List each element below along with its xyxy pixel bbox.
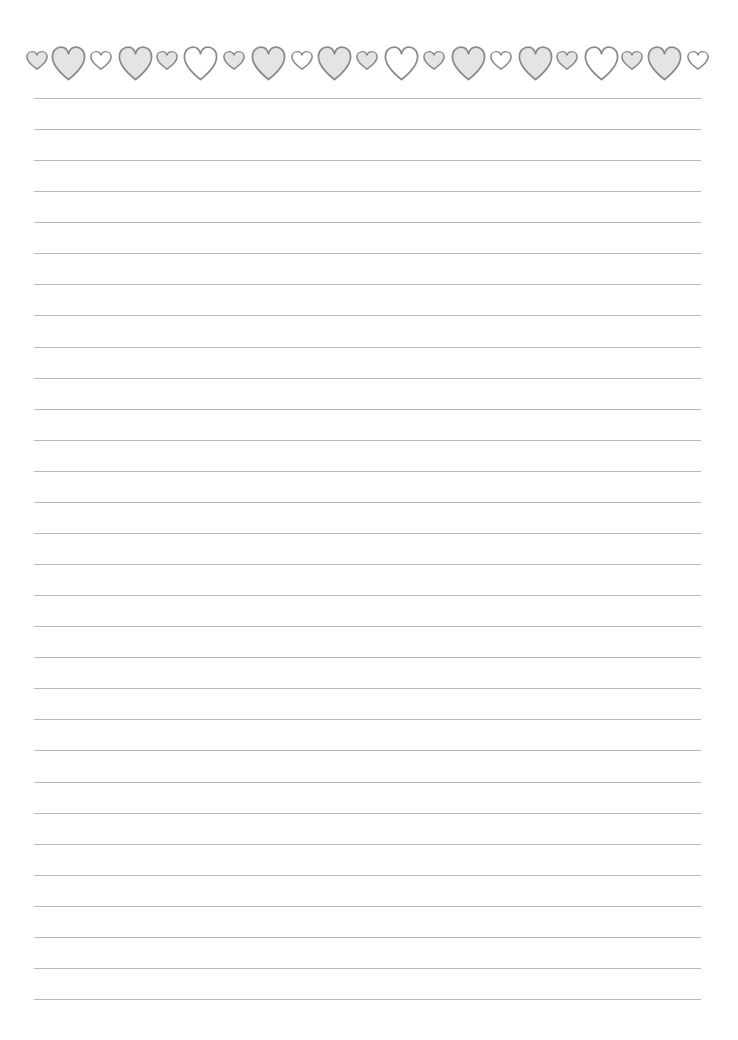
ruled-line <box>34 906 701 907</box>
ruled-line <box>34 595 701 596</box>
ruled-line <box>34 160 701 161</box>
ruled-line <box>34 315 701 316</box>
ruled-line <box>34 409 701 410</box>
ruled-line <box>34 533 701 534</box>
ruled-line <box>34 782 701 783</box>
ruled-lines <box>0 0 738 1040</box>
ruled-line <box>34 626 701 627</box>
ruled-line <box>34 999 701 1000</box>
ruled-line <box>34 253 701 254</box>
ruled-line <box>34 875 701 876</box>
ruled-line <box>34 968 701 969</box>
writing-paper-page <box>0 0 738 1040</box>
ruled-line <box>34 564 701 565</box>
ruled-line <box>34 688 701 689</box>
ruled-line <box>34 844 701 845</box>
ruled-line <box>34 750 701 751</box>
ruled-line <box>34 347 701 348</box>
ruled-line <box>34 440 701 441</box>
ruled-line <box>34 284 701 285</box>
ruled-line <box>34 502 701 503</box>
ruled-line <box>34 719 701 720</box>
ruled-line <box>34 98 701 99</box>
ruled-line <box>34 813 701 814</box>
ruled-line <box>34 191 701 192</box>
ruled-line <box>34 222 701 223</box>
ruled-line <box>34 657 701 658</box>
ruled-line <box>34 937 701 938</box>
ruled-line <box>34 471 701 472</box>
ruled-line <box>34 378 701 379</box>
ruled-line <box>34 129 701 130</box>
